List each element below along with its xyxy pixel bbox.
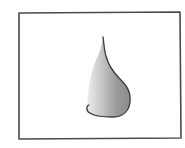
nose-sketch-drawing <box>0 0 185 148</box>
sketch-canvas <box>0 0 185 148</box>
nose-shape <box>85 37 130 117</box>
